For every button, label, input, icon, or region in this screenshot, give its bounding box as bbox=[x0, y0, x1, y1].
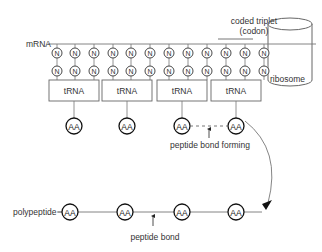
amino-acid-label: AA bbox=[121, 122, 133, 132]
nucleotide-label: N bbox=[54, 68, 59, 75]
trna-label: tRNA bbox=[64, 86, 85, 96]
amino-acid-label: AA bbox=[176, 122, 188, 132]
nucleotide-label: N bbox=[166, 68, 171, 75]
nucleotide-label: N bbox=[110, 50, 115, 57]
curved-arrowhead-icon bbox=[262, 200, 272, 210]
nucleotide-label: N bbox=[204, 68, 209, 75]
nucleotide-label: N bbox=[242, 68, 247, 75]
diagram-canvas: mRNA coded triplet (codon) ribosome NNNN… bbox=[0, 0, 322, 252]
nucleotide-label: N bbox=[147, 50, 152, 57]
nucleotide-label: N bbox=[223, 50, 228, 57]
nucleotide-pair: NN bbox=[202, 44, 212, 80]
nucleotide-label: N bbox=[147, 68, 152, 75]
nucleotide-label: N bbox=[185, 50, 190, 57]
curved-arrow bbox=[245, 121, 272, 203]
codon-label-line1: coded triplet bbox=[231, 16, 278, 26]
nucleotide-label: N bbox=[204, 50, 209, 57]
nucleotide-pair: NN bbox=[89, 44, 99, 80]
polypeptide-label: polypeptide bbox=[13, 207, 57, 217]
amino-acid-label: AA bbox=[119, 208, 131, 218]
trna-label: tRNA bbox=[226, 86, 247, 96]
nucleotide-pairs: NNNNNNNNNNNNNNNNNNNNNNNN bbox=[52, 44, 269, 80]
amino-acid-label: AA bbox=[230, 208, 242, 218]
nucleotide-pair: NN bbox=[52, 44, 62, 80]
amino-acid-label: AA bbox=[68, 122, 80, 132]
nucleotide-pair: NN bbox=[108, 44, 118, 80]
nucleotide-label: N bbox=[261, 50, 266, 57]
nucleotide-pair: NN bbox=[126, 44, 136, 80]
nucleotide-label: N bbox=[72, 68, 77, 75]
trna-molecules: tRNAAAtRNAAAtRNAAAtRNAAA bbox=[49, 80, 261, 134]
codon-label-line2: (codon) bbox=[240, 26, 269, 36]
nucleotide-pair: NN bbox=[145, 44, 155, 80]
amino-acid-label: AA bbox=[230, 122, 242, 132]
amino-acid-label: AA bbox=[176, 208, 188, 218]
nucleotide-label: N bbox=[128, 50, 133, 57]
nucleotide-label: N bbox=[128, 68, 133, 75]
polypeptide-amino-acid: AA bbox=[174, 204, 190, 220]
nucleotide-label: N bbox=[166, 50, 171, 57]
trna-2: tRNAAA bbox=[102, 80, 152, 134]
nucleotide-pair: NN bbox=[164, 44, 174, 80]
nucleotide-label: N bbox=[91, 50, 96, 57]
nucleotide-pair: NN bbox=[183, 44, 193, 80]
polypeptide-amino-acid: AA bbox=[62, 204, 78, 220]
nucleotide-pair: NN bbox=[240, 44, 250, 80]
polypeptide-amino-acid: AA bbox=[228, 204, 244, 220]
nucleotide-pair: NN bbox=[221, 44, 231, 80]
nucleotide-label: N bbox=[72, 50, 77, 57]
nucleotide-label: N bbox=[54, 50, 59, 57]
nucleotide-pair: NN bbox=[70, 44, 80, 80]
trna-4: tRNAAA bbox=[211, 80, 261, 134]
nucleotide-label: N bbox=[185, 68, 190, 75]
trna-1: tRNAAA bbox=[49, 80, 99, 134]
nucleotide-pair: NN bbox=[259, 44, 269, 80]
nucleotide-label: N bbox=[261, 68, 266, 75]
nucleotide-label: N bbox=[242, 50, 247, 57]
peptide-bond-forming-label: peptide bond forming bbox=[170, 140, 250, 150]
trna-label: tRNA bbox=[117, 86, 138, 96]
ribosome-label: ribosome bbox=[270, 74, 305, 84]
trna-label: tRNA bbox=[172, 86, 193, 96]
amino-acid-label: AA bbox=[64, 208, 76, 218]
translation-diagram: mRNA coded triplet (codon) ribosome NNNN… bbox=[0, 0, 322, 252]
nucleotide-label: N bbox=[110, 68, 115, 75]
polypeptide-amino-acid: AA bbox=[117, 204, 133, 220]
nucleotide-label: N bbox=[91, 68, 96, 75]
peptide-bond-label: peptide bond bbox=[130, 232, 179, 242]
mrna-label: mRNA bbox=[26, 39, 51, 49]
trna-3: tRNAAA bbox=[157, 80, 207, 134]
nucleotide-label: N bbox=[223, 68, 228, 75]
